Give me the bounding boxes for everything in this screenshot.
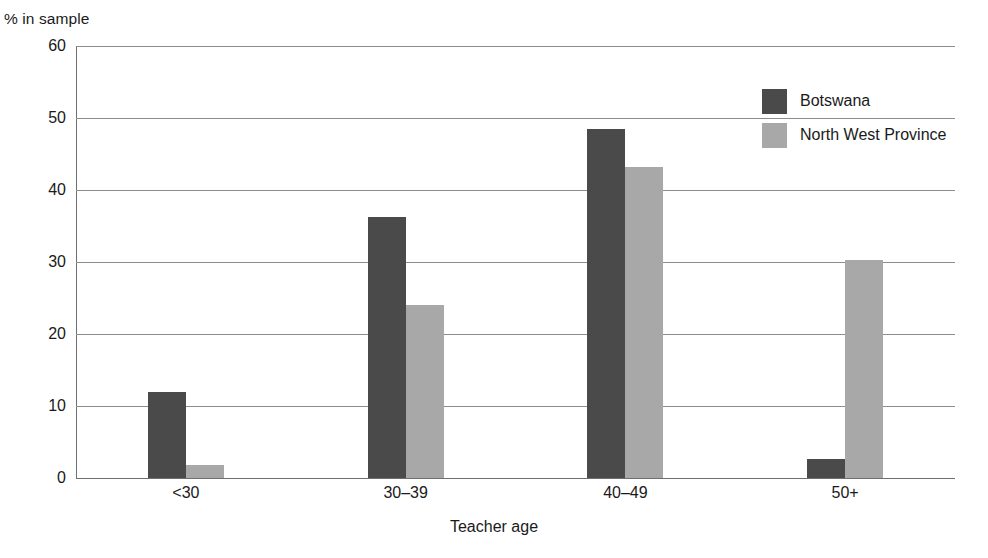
bar (807, 459, 845, 478)
y-tick-label: 30 (6, 253, 66, 271)
bar-group (148, 46, 224, 478)
bar-group (587, 46, 663, 478)
x-axis-title: Teacher age (0, 518, 988, 536)
chart-legend: BotswanaNorth West Province (762, 84, 946, 152)
bar (406, 305, 444, 478)
legend-swatch-icon (762, 89, 787, 114)
legend-label: Botswana (800, 92, 870, 110)
y-axis-title: % in sample (4, 10, 90, 28)
y-tick-label: 50 (6, 109, 66, 127)
legend-label: North West Province (800, 126, 946, 144)
bar (587, 129, 625, 478)
bar (845, 260, 883, 478)
legend-item: North West Province (762, 118, 946, 152)
x-tick-label: 30–39 (383, 484, 428, 502)
bar-group (368, 46, 444, 478)
y-tick-label: 0 (6, 469, 66, 487)
bar-chart-figure: % in sample 0102030405060 <3030–3940–495… (0, 0, 988, 558)
legend-swatch-icon (762, 123, 787, 148)
legend-item: Botswana (762, 84, 946, 118)
bar (186, 465, 224, 478)
bar (625, 167, 663, 478)
x-tick-label: <30 (172, 484, 199, 502)
x-tick-label: 40–49 (603, 484, 648, 502)
x-axis-tick-labels: <3030–3940–4950+ (76, 484, 955, 514)
y-tick-label: 60 (6, 37, 66, 55)
y-tick-label: 40 (6, 181, 66, 199)
bar (148, 392, 186, 478)
y-tick-label: 20 (6, 325, 66, 343)
gridline-0 (76, 478, 955, 479)
bar (368, 217, 406, 478)
y-axis-tick-labels: 0102030405060 (0, 46, 66, 478)
x-tick-label: 50+ (832, 484, 859, 502)
y-tick-label: 10 (6, 397, 66, 415)
